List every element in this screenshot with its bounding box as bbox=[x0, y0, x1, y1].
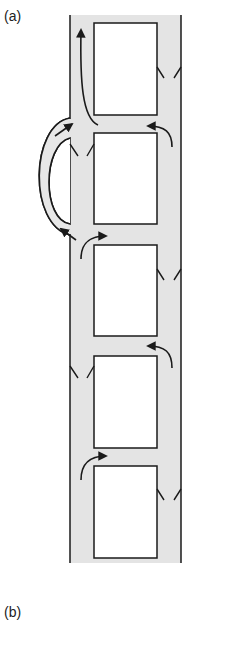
box-1 bbox=[94, 23, 157, 115]
panel-label-b: (b) bbox=[4, 604, 21, 620]
ladder-flow-diagram bbox=[0, 0, 238, 646]
box-3 bbox=[94, 245, 157, 336]
box-4 bbox=[94, 356, 157, 448]
box-5 bbox=[94, 466, 157, 558]
box-2 bbox=[94, 133, 157, 224]
